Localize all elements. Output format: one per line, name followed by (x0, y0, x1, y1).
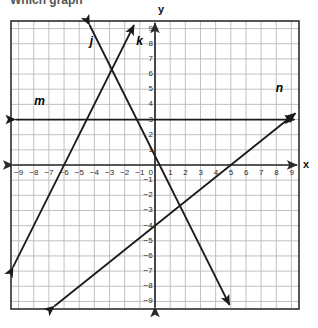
line-label-m: m (34, 95, 45, 107)
y-tick-1: 1 (149, 146, 153, 154)
x-tick-6: 6 (244, 169, 248, 177)
origin-tick-label: 0 (149, 169, 153, 177)
y-tick-7: 7 (149, 55, 153, 63)
x-tick--6: −6 (60, 169, 69, 177)
y-tick--8: −8 (144, 282, 153, 290)
x-tick--8: −8 (29, 169, 38, 177)
x-tick-1: 1 (168, 169, 172, 177)
x-tick--3: −3 (105, 169, 114, 177)
y-tick--6: −6 (144, 252, 153, 260)
y-tick-2: 2 (149, 131, 153, 139)
y-tick--1: −1 (144, 176, 153, 184)
line-label-j: j (90, 35, 93, 47)
coordinate-plane-figure: Which graph x y j k m n −9−8−7−6−5−4−3−2… (0, 0, 318, 328)
y-tick--2: −2 (144, 191, 153, 199)
x-tick--7: −7 (44, 169, 53, 177)
y-tick-6: 6 (149, 70, 153, 78)
x-tick--2: −2 (120, 169, 129, 177)
y-tick-9: 9 (149, 25, 153, 33)
x-tick--5: −5 (75, 169, 84, 177)
x-tick-8: 8 (274, 169, 278, 177)
x-tick-3: 3 (198, 169, 202, 177)
y-tick-3: 3 (149, 116, 153, 124)
y-tick--3: −3 (144, 206, 153, 214)
line-label-k: k (136, 35, 143, 47)
line-label-n: n (276, 82, 283, 94)
x-tick--9: −9 (14, 169, 23, 177)
y-tick-5: 5 (149, 85, 153, 93)
x-tick-2: 2 (183, 169, 187, 177)
x-tick-9: 9 (289, 169, 293, 177)
y-axis-label: y (158, 4, 164, 15)
y-tick-8: 8 (149, 40, 153, 48)
y-tick--9: −9 (144, 297, 153, 305)
x-tick-5: 5 (229, 169, 233, 177)
y-tick--5: −5 (144, 237, 153, 245)
y-tick--7: −7 (144, 267, 153, 275)
x-axis-label: x (303, 159, 309, 170)
graph-canvas (0, 0, 318, 328)
y-tick--4: −4 (144, 222, 153, 230)
x-tick-7: 7 (259, 169, 263, 177)
y-tick-4: 4 (149, 100, 153, 108)
x-tick--4: −4 (90, 169, 99, 177)
x-tick-4: 4 (214, 169, 218, 177)
